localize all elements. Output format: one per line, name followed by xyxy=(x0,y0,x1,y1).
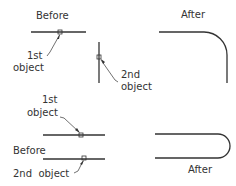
top-second-label-line2: object xyxy=(121,81,152,92)
top-second-label-line1: 2nd xyxy=(121,69,140,80)
top-first-label-line1: 1st xyxy=(27,50,43,61)
top-after-label: After xyxy=(181,9,206,20)
bottom-filleted-u-turn xyxy=(155,134,230,158)
top-second-arrowhead xyxy=(101,59,105,64)
bottom-before-group: 1st object Before 2nd object xyxy=(13,94,105,179)
fillet-diagram: Before 1st object 2nd object After 1st o… xyxy=(0,0,236,186)
bottom-second-label: 2nd object xyxy=(13,168,69,179)
top-first-arrowhead xyxy=(57,34,60,39)
top-after-group: After xyxy=(159,9,227,83)
bottom-after-label: After xyxy=(188,164,213,175)
bottom-after-group: After xyxy=(155,134,230,175)
top-filleted-corner xyxy=(159,32,227,83)
top-first-label-line2: object xyxy=(13,62,44,73)
bottom-first-label-line2: object xyxy=(27,107,58,118)
bottom-second-arrowhead xyxy=(80,160,84,165)
top-before-label: Before xyxy=(36,10,69,21)
bottom-before-label: Before xyxy=(13,145,46,156)
top-before-group: Before 1st object 2nd object xyxy=(13,10,152,92)
bottom-first-label-line1: 1st xyxy=(42,94,58,105)
